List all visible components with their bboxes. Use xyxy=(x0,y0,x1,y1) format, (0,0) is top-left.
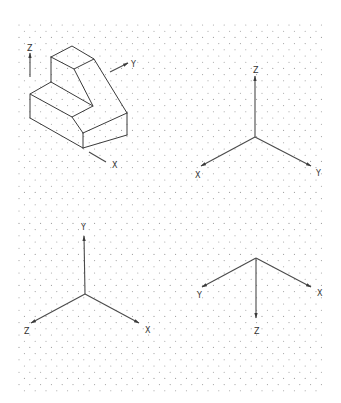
a3-y-label: Y xyxy=(196,291,202,300)
a1-y-axis-arrow xyxy=(255,137,311,166)
solid-y-axis-arrow xyxy=(110,63,128,72)
axes-set-3: Y X Z xyxy=(196,258,323,336)
a1-z-label: Z xyxy=(253,66,259,75)
a1-x-axis-arrow xyxy=(201,137,255,166)
solid-reference-axes: Z Y X xyxy=(27,44,136,170)
a2-y-label: Y xyxy=(80,223,86,232)
a2-z-axis-arrow xyxy=(31,294,85,323)
a1-x-label: X xyxy=(195,171,201,180)
a3-x-axis-arrow xyxy=(256,258,311,287)
isometric-worksheet: Z Y X Z X Y Y Z X Y X Z xyxy=(0,0,341,403)
a2-x-axis-arrow xyxy=(85,294,139,323)
a1-y-label: Y xyxy=(315,169,321,178)
solid-x-axis-arrow xyxy=(89,152,106,162)
solid-z-label: Z xyxy=(27,44,33,53)
isometric-solid xyxy=(30,46,127,148)
a2-x-label: X xyxy=(145,326,151,335)
solid-x-label: X xyxy=(112,161,118,170)
isometric-dot-grid xyxy=(18,24,322,391)
a3-x-label: X xyxy=(317,289,323,298)
a2-z-label: Z xyxy=(24,327,30,336)
solid-y-label: Y xyxy=(130,60,136,69)
a3-y-axis-arrow xyxy=(202,258,256,287)
a3-z-label: Z xyxy=(254,327,260,336)
axes-set-1: Z X Y xyxy=(195,66,321,180)
